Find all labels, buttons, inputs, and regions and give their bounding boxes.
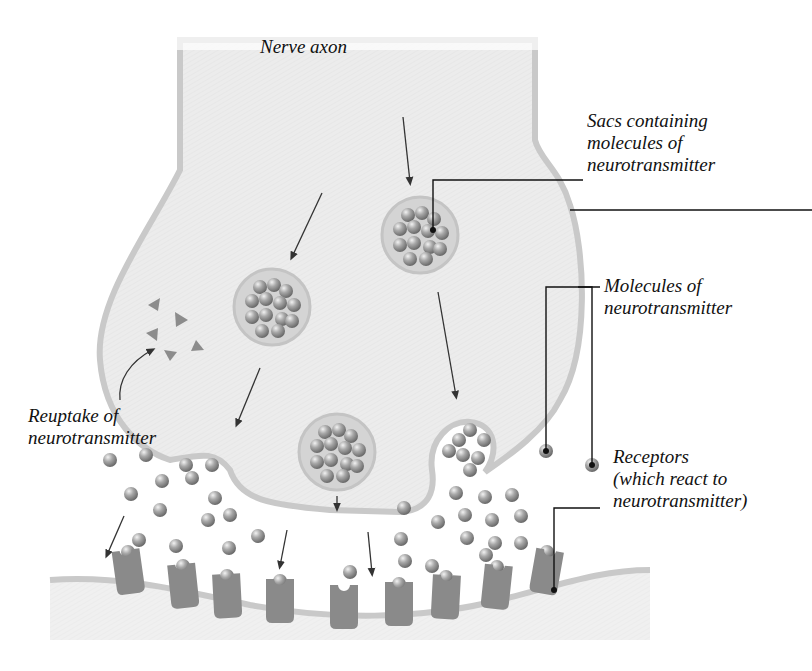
label-nerve-axon: Nerve axon	[260, 36, 347, 58]
label-reuptake: Reuptake of neurotransmitter	[28, 405, 156, 449]
synapse-diagram: Nerve axon Sacs containing molecules of …	[0, 0, 812, 671]
synapse-illustration	[0, 0, 812, 671]
label-sacs: Sacs containing molecules of neurotransm…	[587, 110, 715, 176]
label-molecules: Molecules of neurotransmitter	[604, 275, 732, 319]
label-receptors: Receptors (which react to neurotransmitt…	[613, 446, 747, 512]
